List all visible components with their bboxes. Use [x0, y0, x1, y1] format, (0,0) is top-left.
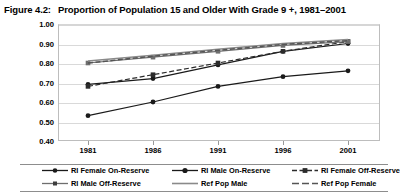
data-point — [86, 84, 91, 89]
legend-row-2: RI Male Off-Reserve Ref Pop Male Ref Pop… — [20, 179, 388, 192]
legend-key-icon — [42, 179, 68, 188]
data-point — [281, 74, 286, 79]
series-layer — [58, 24, 380, 141]
legend-key-icon — [172, 166, 198, 175]
legend-label: RI Female Off-Reserve — [321, 166, 400, 175]
x-axis-tick — [348, 141, 349, 145]
series-line — [88, 71, 348, 116]
x-axis-labels: 19811986199119962001 — [0, 146, 399, 158]
legend-item-ref-pop-male[interactable]: Ref Pop Male — [172, 179, 247, 188]
legend-item-ri-female-on-reserve[interactable]: RI Female On-Reserve — [42, 166, 149, 175]
y-axis-tick-label: 1.00 — [28, 20, 54, 29]
x-axis-tick — [218, 141, 219, 145]
data-point — [151, 100, 156, 105]
legend-key-icon — [292, 179, 318, 188]
x-axis-tick-label: 1981 — [68, 146, 108, 155]
chart-area: 1.000.900.800.700.600.500.40 19811986199… — [0, 16, 399, 164]
legend-item-ri-male-off-reserve[interactable]: RI Male Off-Reserve — [42, 179, 141, 188]
figure-title-bar: Figure 4.2: Proportion of Population 15 … — [4, 2, 396, 16]
data-point — [346, 68, 351, 73]
legend-label: Ref Pop Female — [321, 179, 376, 188]
legend-item-ri-female-off-reserve[interactable]: RI Female Off-Reserve — [292, 166, 400, 175]
x-axis-tick — [283, 141, 284, 145]
y-axis-tick-label: 0.40 — [28, 137, 54, 146]
legend-item-ref-pop-female[interactable]: Ref Pop Female — [292, 179, 376, 188]
legend-key-icon — [172, 179, 198, 188]
data-point — [216, 84, 221, 89]
y-axis-labels: 1.000.900.800.700.600.500.40 — [26, 24, 54, 141]
y-axis-tick-label: 0.60 — [28, 98, 54, 107]
legend-label: Ref Pop Male — [201, 179, 247, 188]
legend-row-1: RI Female On-Reserve RI Male On-Reserve … — [20, 166, 388, 179]
series-ri-female-on-reserve — [86, 68, 351, 118]
y-axis-tick-label: 0.50 — [28, 117, 54, 126]
x-axis-tick-label: 2001 — [328, 146, 368, 155]
legend-key-icon — [292, 166, 318, 175]
legend-key-icon — [42, 166, 68, 175]
data-point — [216, 61, 221, 66]
y-axis-tick-label: 0.70 — [28, 78, 54, 87]
legend-label: RI Male On-Reserve — [201, 166, 270, 175]
data-point — [86, 113, 91, 118]
legend-label: RI Male Off-Reserve — [71, 179, 141, 188]
chart-legend: RI Female On-Reserve RI Male On-Reserve … — [20, 164, 388, 192]
y-axis-tick-label: 0.90 — [28, 39, 54, 48]
x-axis-tick-label: 1991 — [198, 146, 238, 155]
figure-number-label: Figure 4.2: — [4, 4, 51, 15]
x-axis-tick-label: 1986 — [133, 146, 173, 155]
x-axis-tick-label: 1996 — [263, 146, 303, 155]
legend-item-ri-male-on-reserve[interactable]: RI Male On-Reserve — [172, 166, 270, 175]
legend-label: RI Female On-Reserve — [71, 166, 149, 175]
x-axis-tick — [153, 141, 154, 145]
page-title: Proportion of Population 15 and Older Wi… — [58, 4, 346, 15]
y-axis-tick-label: 0.80 — [28, 59, 54, 68]
data-point — [151, 72, 156, 77]
x-axis-tick — [88, 141, 89, 145]
data-point — [281, 49, 286, 54]
